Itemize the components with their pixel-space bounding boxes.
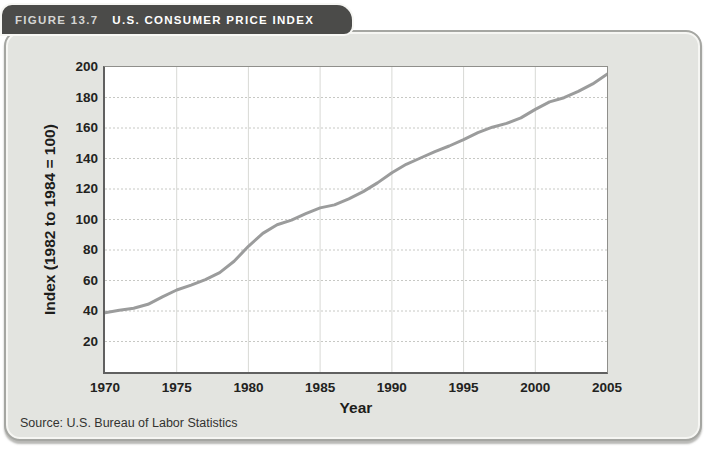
figure-number: FIGURE 13.7 [15,14,98,26]
x-tick-label: 1980 [218,379,278,396]
y-tick-label: 140 [52,150,98,168]
x-tick-label: 1970 [75,379,135,396]
y-tick-label: 40 [52,302,98,320]
figure-title: U.S. CONSUMER PRICE INDEX [112,14,314,26]
y-tick-label: 120 [52,180,98,198]
x-tick-label: 1995 [434,379,494,396]
cpi-line-chart [105,67,607,372]
y-tick-label: 100 [52,211,98,229]
y-tick-label: 20 [52,333,98,351]
figure-card: Index (1982 to 1984 = 100) 2040608010012… [4,30,702,441]
y-tick-label: 200 [52,58,98,76]
y-tick-label: 180 [52,89,98,107]
y-tick-label: 60 [52,272,98,290]
figure-tab: FIGURE 13.7 U.S. CONSUMER PRICE INDEX [2,5,352,34]
plot-area [103,66,608,374]
x-tick-label: 1985 [290,379,350,396]
y-tick-label: 160 [52,119,98,137]
x-tick-label: 2000 [505,379,565,396]
y-tick-label: 80 [52,241,98,259]
x-tick-label: 1975 [147,379,207,396]
x-tick-label: 1990 [362,379,422,396]
cpi-line [105,74,607,313]
x-tick-label: 2005 [577,379,637,396]
x-axis-title: Year [105,399,607,417]
source-note: Source: U.S. Bureau of Labor Statistics [20,416,237,430]
